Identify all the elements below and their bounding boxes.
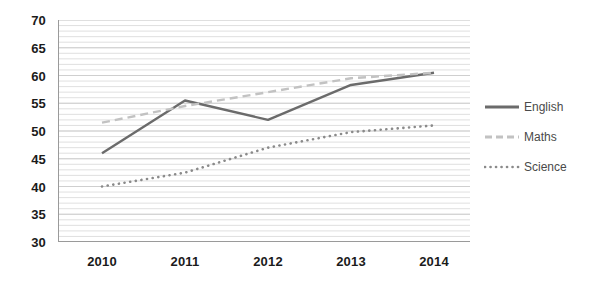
- x-tick-label: 2011: [170, 254, 199, 269]
- x-tick-label: 2014: [419, 254, 449, 269]
- legend: English Maths Science: [484, 92, 588, 182]
- legend-label-maths: Maths: [524, 130, 557, 144]
- x-tick-label: 2010: [87, 254, 117, 269]
- legend-item-english[interactable]: English: [484, 92, 588, 122]
- y-tick-label: 50: [0, 125, 46, 138]
- x-axis: 20102011201220132014: [58, 254, 470, 276]
- legend-swatch-maths-icon: [484, 131, 520, 143]
- legend-swatch-english-icon: [484, 101, 520, 113]
- legend-item-maths[interactable]: Maths: [484, 122, 588, 152]
- y-tick-label: 55: [0, 97, 46, 110]
- legend-swatch-science-icon: [484, 161, 520, 173]
- plot-svg: [58, 20, 470, 242]
- legend-label-english: English: [524, 100, 563, 114]
- y-tick-label: 60: [0, 69, 46, 82]
- series-lines: [102, 73, 434, 187]
- y-tick-label: 35: [0, 208, 46, 221]
- line-chart: 706560555045403530 20102011201220132014 …: [0, 0, 590, 282]
- plot-area: [58, 20, 470, 242]
- x-tick-label: 2013: [336, 254, 366, 269]
- y-tick-label: 30: [0, 236, 46, 249]
- series-line-science: [102, 125, 434, 186]
- series-line-english: [102, 73, 434, 153]
- x-tick-label: 2012: [253, 254, 283, 269]
- y-tick-label: 45: [0, 152, 46, 165]
- y-tick-label: 40: [0, 180, 46, 193]
- y-tick-label: 65: [0, 41, 46, 54]
- y-axis: 706560555045403530: [0, 0, 46, 282]
- legend-label-science: Science: [524, 160, 567, 174]
- y-tick-label: 70: [0, 14, 46, 27]
- legend-item-science[interactable]: Science: [484, 152, 588, 182]
